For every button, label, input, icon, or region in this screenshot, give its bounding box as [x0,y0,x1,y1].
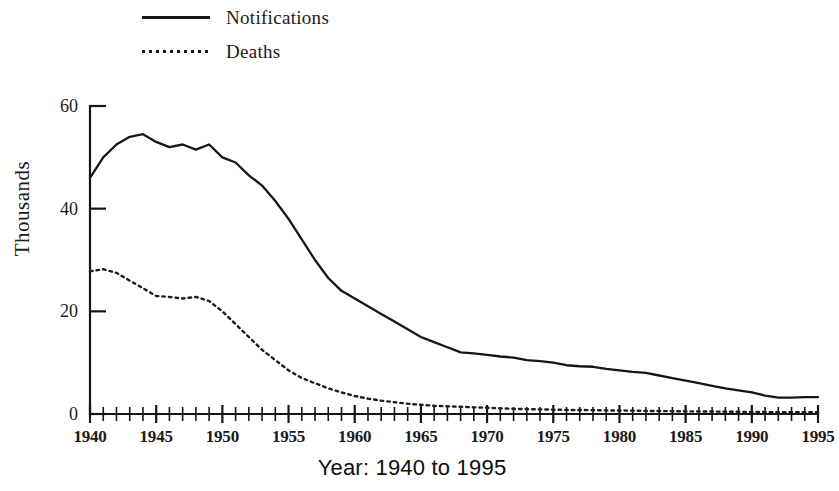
y-axis-tick-label: 40 [34,200,78,218]
series-line-notifications [90,134,818,397]
x-axis-tick-label: 1995 [788,428,839,445]
y-axis-tick-label: 60 [34,97,78,115]
x-axis-tick-label: 1980 [589,428,649,445]
x-axis-tick-label: 1960 [325,428,385,445]
x-axis-tick-label: 1955 [259,428,319,445]
x-axis-tick-label: 1950 [192,428,252,445]
x-axis-tick-label: 1990 [722,428,782,445]
x-axis-title: Year: 1940 to 1995 [0,455,824,481]
x-axis-tick-label: 1965 [391,428,451,445]
y-axis-ticks [90,106,106,414]
y-axis-title: Thousands [10,139,35,279]
y-axis-tick-label: 20 [34,302,78,320]
series-line-deaths [90,269,818,412]
axis-lines [90,106,818,414]
x-axis-tick-label: 1945 [126,428,186,445]
x-axis-tick-label: 1940 [60,428,120,445]
x-axis-tick-label: 1985 [656,428,716,445]
x-axis-tick-label: 1975 [523,428,583,445]
axes-group [90,106,818,423]
x-axis-tick-label: 1970 [457,428,517,445]
y-axis-tick-label: 0 [34,405,78,423]
